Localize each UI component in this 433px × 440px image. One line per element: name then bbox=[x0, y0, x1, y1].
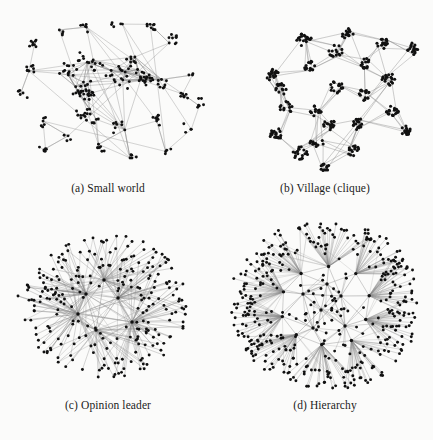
village-clique-graph-canvas bbox=[217, 2, 433, 178]
caption-small-world: (a) Small world bbox=[0, 182, 216, 194]
village-clique-graph-svg bbox=[217, 2, 433, 178]
opinion-leader-edges bbox=[18, 236, 186, 377]
small-world-nodes bbox=[17, 21, 205, 159]
network-topology-figure: (a) Small world (b) Village (clique) (c)… bbox=[0, 0, 433, 440]
panel-village-clique bbox=[217, 2, 433, 178]
small-world-graph-canvas bbox=[0, 2, 216, 178]
panel-small-world bbox=[0, 2, 216, 178]
small-world-graph-svg bbox=[0, 2, 216, 178]
opinion-leader-graph-svg bbox=[0, 218, 216, 394]
caption-village-clique: (b) Village (clique) bbox=[217, 182, 433, 194]
hierarchy-graph-svg bbox=[217, 218, 433, 394]
panel-opinion-leader bbox=[0, 218, 216, 394]
opinion-leader-graph-canvas bbox=[0, 218, 216, 394]
panel-hierarchy bbox=[217, 218, 433, 394]
hierarchy-graph-canvas bbox=[217, 218, 433, 394]
caption-opinion-leader: (c) Opinion leader bbox=[0, 399, 216, 411]
caption-hierarchy: (d) Hierarchy bbox=[217, 399, 433, 411]
